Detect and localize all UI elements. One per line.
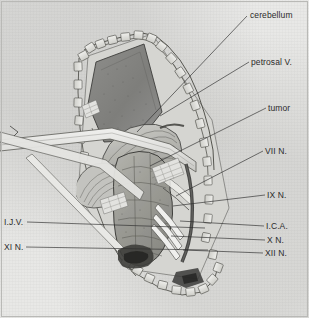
anatomical-figure: cerebellum petrosal V. tumor VII N. IX N… xyxy=(0,0,309,318)
label-x-n: X N. xyxy=(267,236,284,245)
label-vii-n: VII N. xyxy=(265,147,287,156)
label-petrosal-v: petrosal V. xyxy=(251,58,292,67)
label-ijv: I.J.V. xyxy=(4,218,23,227)
illustration-artwork xyxy=(0,0,309,318)
label-tumor: tumor xyxy=(268,104,290,113)
label-xii-n: XII N. xyxy=(265,249,287,258)
label-cerebellum: cerebellum xyxy=(250,11,293,20)
label-xi-n: XI N. xyxy=(4,243,23,252)
label-ica: I.C.A. xyxy=(266,222,288,231)
label-ix-n: IX N. xyxy=(267,191,286,200)
